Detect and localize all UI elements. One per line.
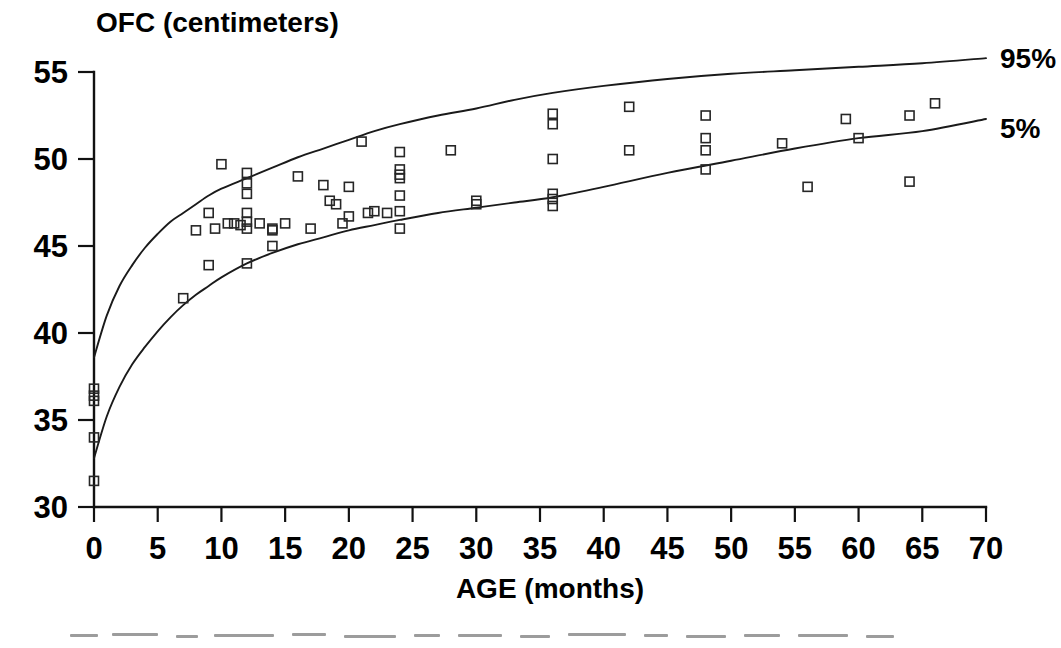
data-point-marker	[255, 219, 264, 228]
x-axis-tick-label: 5	[149, 531, 166, 566]
data-point-marker	[548, 155, 557, 164]
data-point-marker	[625, 102, 634, 111]
data-point-marker	[395, 174, 404, 183]
x-axis-tick-label: 0	[85, 531, 102, 566]
x-axis-tick-label: 40	[586, 531, 620, 566]
data-point-marker	[548, 109, 557, 118]
data-point-marker	[357, 137, 366, 146]
data-point-marker	[625, 146, 634, 155]
ofc-age-scatter-plot: 3035404550550510152025303540455055606570…	[0, 0, 1061, 648]
data-point-marker	[905, 111, 914, 120]
data-point-marker	[191, 226, 200, 235]
data-point-marker	[211, 224, 220, 233]
y-axis-tick-label: 35	[34, 403, 68, 438]
data-point-marker	[841, 114, 850, 123]
percentile-curves-layer	[94, 58, 986, 458]
data-point-markers-layer	[90, 99, 940, 486]
x-axis-tick-label: 65	[905, 531, 939, 566]
data-point-marker	[395, 224, 404, 233]
data-point-marker	[395, 207, 404, 216]
data-point-marker	[446, 146, 455, 155]
curve-label-5pct: 5%	[1000, 113, 1041, 144]
data-point-marker	[306, 224, 315, 233]
data-point-marker	[701, 111, 710, 120]
y-axis-tick-label: 50	[34, 142, 68, 177]
data-point-marker	[383, 208, 392, 217]
x-axis-tick-label: 25	[395, 531, 429, 566]
data-point-marker	[778, 139, 787, 148]
data-point-marker	[293, 172, 302, 181]
x-axis-tick-label: 45	[650, 531, 684, 566]
data-point-marker	[395, 148, 404, 157]
data-point-marker	[242, 208, 251, 217]
data-point-marker	[319, 181, 328, 190]
y-axis-tick-label: 40	[34, 316, 68, 351]
percentile-curve-5pct	[94, 119, 986, 458]
data-point-marker	[223, 219, 232, 228]
data-point-marker	[905, 177, 914, 186]
y-axis-tick-label: 55	[34, 55, 68, 90]
data-point-marker	[701, 134, 710, 143]
data-point-marker	[204, 208, 213, 217]
x-axis-tick-label: 50	[714, 531, 748, 566]
data-point-marker	[803, 182, 812, 191]
x-axis-tick-label: 35	[523, 531, 557, 566]
data-point-marker	[217, 160, 226, 169]
data-point-marker	[701, 146, 710, 155]
x-axis-tick-label: 10	[204, 531, 238, 566]
data-point-marker	[204, 261, 213, 270]
axis-spines	[94, 72, 986, 507]
data-point-marker	[344, 182, 353, 191]
x-axis-tick-label: 70	[969, 531, 1003, 566]
x-axis-tick-label: 20	[332, 531, 366, 566]
data-point-marker	[268, 242, 277, 251]
growth-chart-figure: 3035404550550510152025303540455055606570…	[0, 0, 1061, 648]
x-axis-tick-label: 55	[778, 531, 812, 566]
data-point-marker	[472, 196, 481, 205]
scan-edge-artifact	[0, 622, 1061, 648]
curve-label-95pct: 95%	[1000, 43, 1056, 74]
y-axis-tick-label: 45	[34, 229, 68, 264]
data-point-marker	[325, 196, 334, 205]
data-point-marker	[332, 200, 341, 209]
data-point-marker	[281, 219, 290, 228]
text-labels-layer: 3035404550550510152025303540455055606570…	[34, 7, 1057, 604]
x-axis-tick-label: 30	[459, 531, 493, 566]
percentile-curve-95pct	[94, 58, 986, 357]
x-axis-title: AGE (months)	[456, 573, 644, 604]
data-point-marker	[931, 99, 940, 108]
x-axis-tick-label: 15	[268, 531, 302, 566]
data-point-marker	[548, 120, 557, 129]
data-point-marker	[395, 191, 404, 200]
chart-title: OFC (centimeters)	[96, 7, 339, 38]
data-point-marker	[242, 189, 251, 198]
y-axis-tick-label: 30	[34, 490, 68, 525]
x-axis-tick-label: 60	[841, 531, 875, 566]
